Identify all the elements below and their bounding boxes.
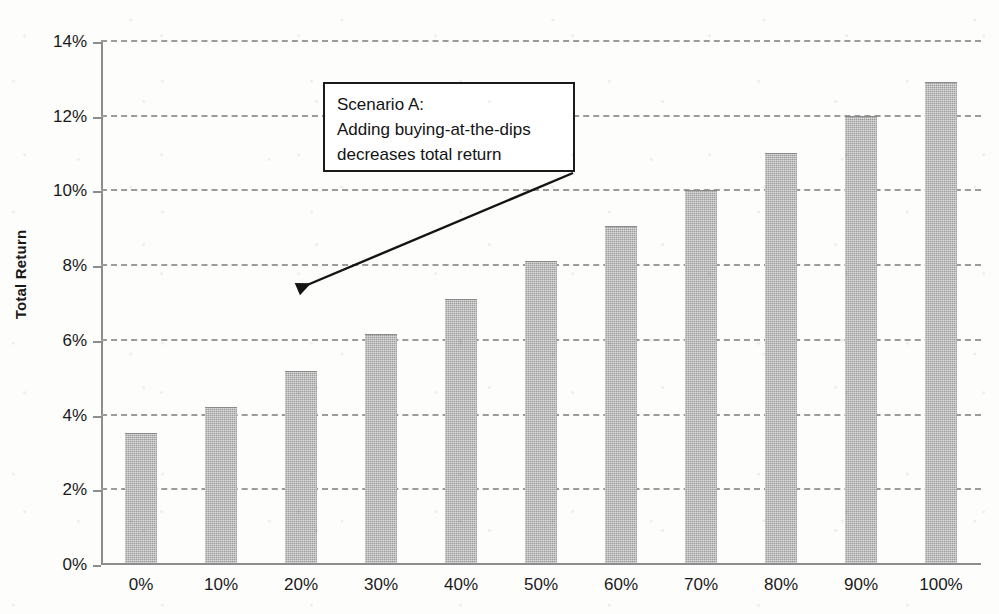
bar-90% [845,116,876,563]
x-tick-label: 100% [901,575,981,595]
bar-40% [445,299,476,563]
x-tick-label: 20% [261,575,341,595]
y-tick-label: 0% [62,555,87,575]
x-tick-label: 0% [101,575,181,595]
y-tick-mark [93,117,101,119]
bar-slot [661,40,741,563]
bar-slot [581,40,661,563]
x-tick-label: 60% [581,575,661,595]
y-tick-label: 8% [62,256,87,276]
y-tick-label: 12% [53,107,87,127]
x-tick-label: 40% [421,575,501,595]
annotation-line-3: decreases total return [337,142,573,167]
bar-0% [125,433,156,563]
x-tick-label: 10% [181,575,261,595]
bar-50% [525,261,556,563]
bar-30% [365,334,396,563]
y-tick-mark [93,490,101,492]
x-tick-label: 80% [741,575,821,595]
bar-slot [101,40,181,563]
bar-70% [685,190,716,563]
y-tick-label: 10% [53,181,87,201]
bar-100% [925,82,956,563]
annotation-line-2: Adding buying-at-the-dips [337,117,573,142]
bar-80% [765,153,796,563]
annotation-callout-scenario-a: Scenario A: Adding buying-at-the-dips de… [323,82,575,172]
y-tick-mark [93,266,101,268]
bar-slot [741,40,821,563]
bar-60% [605,226,636,563]
gridline-0%: 0% [101,563,981,565]
x-tick-label: 90% [821,575,901,595]
y-tick-label: 4% [62,406,87,426]
x-axis-tick-labels: 0%10%20%30%40%50%60%70%80%90%100% [101,575,981,595]
y-tick-mark [93,341,101,343]
bar-chart-figure: Total Return 0%2%4%6%8%10%12%14% 0%10%20… [0,0,999,614]
y-tick-label: 6% [62,331,87,351]
y-tick-mark [93,42,101,44]
y-tick-label: 14% [53,32,87,52]
bar-20% [285,371,316,563]
x-tick-label: 50% [501,575,581,595]
y-tick-mark [93,565,101,567]
y-tick-label: 2% [62,480,87,500]
y-axis-title: Total Return [12,195,29,355]
bar-10% [205,407,236,563]
bar-slot [181,40,261,563]
annotation-line-1: Scenario A: [337,92,573,117]
y-tick-mark [93,191,101,193]
x-tick-label: 30% [341,575,421,595]
bar-slot [901,40,981,563]
x-tick-label: 70% [661,575,741,595]
y-tick-mark [93,416,101,418]
bar-slot [821,40,901,563]
